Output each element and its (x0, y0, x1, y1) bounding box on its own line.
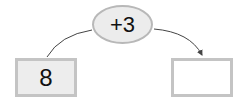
right-arrow-line (154, 29, 202, 55)
input-box: 8 (15, 58, 77, 97)
operator-ellipse: +3 (92, 5, 153, 44)
output-answer-box[interactable] (171, 58, 233, 97)
function-machine-diagram: +3 8 (0, 0, 246, 107)
left-connector-line (47, 30, 92, 57)
